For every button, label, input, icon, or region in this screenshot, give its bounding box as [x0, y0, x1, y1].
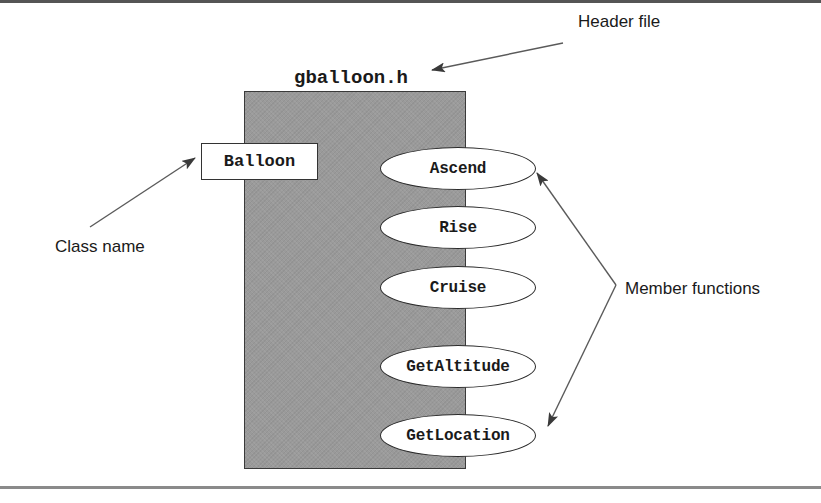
member-functions-arrow-up [537, 173, 616, 285]
member-functions-annotation: Member functions [625, 279, 760, 299]
class-name-annotation: Class name [55, 237, 145, 257]
header-file-arrow [432, 43, 563, 70]
member-functions-arrow-down [548, 285, 616, 426]
header-file-annotation: Header file [578, 12, 660, 32]
bottom-border-rule [0, 486, 821, 489]
class-name-arrow [90, 158, 195, 227]
